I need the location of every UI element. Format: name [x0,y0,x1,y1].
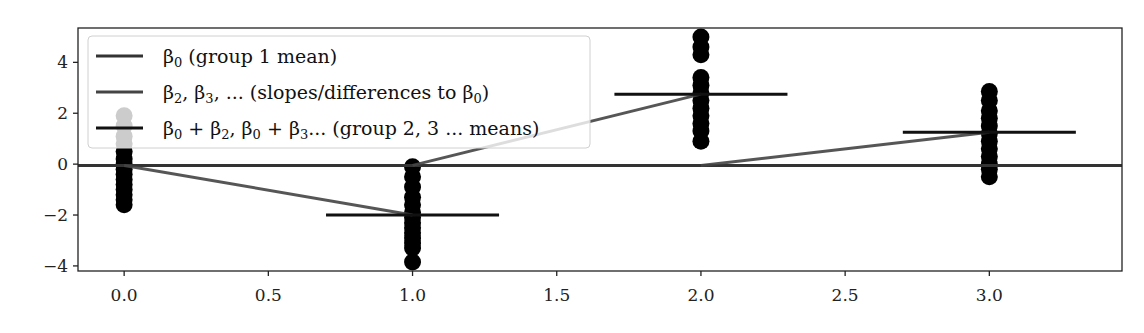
label-part: , β [182,81,205,103]
x-tick-label: 1.0 [399,285,426,305]
slope-line [124,165,412,215]
label-part: β [163,117,174,139]
subscript: 3 [205,91,213,106]
legend-label-group-means: β0 + β2, β0 + β3... (group 2, 3 ... mean… [163,117,539,142]
chart: 0.00.51.01.52.02.53.0420−2−4 β0 (group 1… [0,0,1144,333]
label-part: + β [182,117,221,139]
x-tick-label: 1.5 [543,285,570,305]
y-tick-label: −4 [43,256,68,276]
subscript: 2 [174,91,182,106]
label-part: β [163,45,174,67]
slope-line [701,132,989,165]
data-point [404,254,421,271]
subscript: 3 [300,127,308,142]
data-point [692,133,709,150]
label-part: , ... (slopes/differences to β [214,81,474,103]
y-tick-label: 0 [57,154,68,174]
legend-label-beta0: β0 (group 1 mean) [163,45,337,70]
y-tick-label: 2 [57,103,68,123]
x-tick-label: 2.0 [687,285,714,305]
data-point [116,196,133,213]
label-part: β [163,81,174,103]
subscript: 0 [174,127,182,142]
data-point [981,168,998,185]
label-part: , β [230,117,253,139]
subscript: 0 [253,127,261,142]
subscript: 0 [174,55,182,70]
label-part: ) [482,81,489,103]
data-point [692,46,709,63]
x-tick-label: 3.0 [976,285,1003,305]
label-part: (group 1 mean) [182,45,337,67]
label-part: + β [261,117,300,139]
legend: β0 (group 1 mean)β2, β3, ... (slopes/dif… [88,36,590,148]
y-tick-label: −2 [43,205,68,225]
y-tick-label: 4 [57,52,68,72]
subscript: 2 [221,127,229,142]
label-part: ... (group 2, 3 ... means) [308,117,539,139]
x-tick-label: 0.0 [111,285,138,305]
x-tick-label: 0.5 [255,285,282,305]
subscript: 0 [473,91,481,106]
x-tick-label: 2.5 [832,285,859,305]
